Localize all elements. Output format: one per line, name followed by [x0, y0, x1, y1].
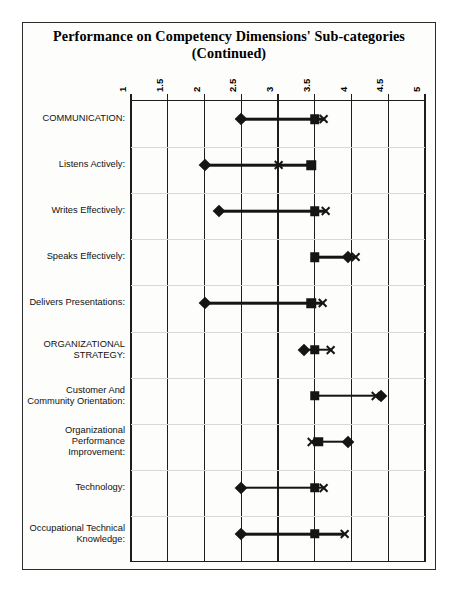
- category-label: Writes Effectively:: [23, 206, 125, 217]
- row-separator: [131, 147, 425, 148]
- category-label-line: Organizational: [23, 425, 125, 436]
- data-point-square: [310, 529, 320, 539]
- data-point-cross: [339, 528, 350, 539]
- category-label-line: Listens Actively:: [23, 160, 125, 171]
- range-line: [205, 302, 323, 305]
- row-separator: [131, 424, 425, 425]
- data-point-square: [310, 253, 320, 263]
- chart-title: Performance on Competency Dimensions' Su…: [22, 28, 436, 62]
- category-label: Technology:: [23, 482, 125, 493]
- range-line: [241, 533, 344, 536]
- x-tick-label: 2: [191, 72, 209, 92]
- x-tick-mark: [424, 94, 425, 101]
- x-tick-mark: [351, 94, 352, 101]
- x-tick-mark: [241, 94, 242, 101]
- x-tick-mark: [130, 94, 131, 101]
- category-label-line: Community Orientation:: [23, 396, 125, 407]
- chart-title-line1: Performance on Competency Dimensions' Su…: [53, 28, 405, 44]
- category-label-line: Occupational Technical: [23, 523, 125, 534]
- data-point-square: [310, 391, 320, 401]
- x-tick-mark: [204, 94, 205, 101]
- data-point-square: [306, 160, 316, 170]
- range-line: [205, 164, 312, 167]
- category-label-line: Speaks Effectively:: [23, 252, 125, 263]
- category-label-line: COMMUNICATION:: [23, 113, 125, 124]
- data-point-cross: [273, 160, 284, 171]
- category-label: Delivers Presentations:: [23, 298, 125, 309]
- x-tick-label: 5: [411, 72, 429, 92]
- category-label-line: Customer And: [23, 384, 125, 395]
- x-tick-mark: [277, 94, 278, 101]
- category-label-line: Technology:: [23, 482, 125, 493]
- category-label: OrganizationalPerformanceImprovement:: [23, 425, 125, 459]
- category-label-line: Performance: [23, 436, 125, 447]
- x-tick-label: 2.5: [227, 72, 245, 92]
- category-label: COMMUNICATION:: [23, 113, 125, 124]
- x-tick-mark: [388, 94, 389, 101]
- data-point-cross: [318, 482, 329, 493]
- data-point-cross: [350, 252, 361, 263]
- category-label-line: Writes Effectively:: [23, 206, 125, 217]
- x-tick-label: 1: [117, 72, 135, 92]
- chart-title-line2: (Continued): [22, 45, 436, 62]
- row-separator: [131, 193, 425, 194]
- x-tick-label: 1.5: [154, 72, 172, 92]
- x-tick-label: 4: [338, 72, 356, 92]
- category-label-line: Improvement:: [23, 447, 125, 458]
- category-label: Speaks Effectively:: [23, 252, 125, 263]
- data-point-cross: [370, 390, 381, 401]
- data-point-square: [306, 299, 316, 309]
- row-separator: [131, 332, 425, 333]
- x-tick-mark: [314, 94, 315, 101]
- row-separator: [131, 516, 425, 517]
- data-point-square: [310, 345, 320, 355]
- row-separator: [131, 239, 425, 240]
- category-label-line: Delivers Presentations:: [23, 298, 125, 309]
- x-tick-mark: [167, 94, 168, 101]
- row-separator: [131, 285, 425, 286]
- x-tick-label: 3.5: [301, 72, 319, 92]
- data-point-cross: [317, 298, 328, 309]
- category-label-line: ORGANIZATIONAL: [23, 338, 125, 349]
- category-label-line: STRATEGY:: [23, 350, 125, 361]
- x-tick-label: 4.5: [374, 72, 392, 92]
- category-label: Listens Actively:: [23, 160, 125, 171]
- category-label: Customer AndCommunity Orientation:: [23, 384, 125, 406]
- data-point-cross: [306, 436, 317, 447]
- data-point-cross: [318, 114, 329, 125]
- category-label: Occupational TechnicalKnowledge:: [23, 523, 125, 545]
- data-point-square: [310, 207, 320, 217]
- row-separator: [131, 470, 425, 471]
- data-point-cross: [325, 344, 336, 355]
- category-label: ORGANIZATIONALSTRATEGY:: [23, 338, 125, 360]
- category-label-line: Knowledge:: [23, 534, 125, 545]
- data-point-cross: [320, 206, 331, 217]
- x-tick-label: 3: [264, 72, 282, 92]
- row-separator: [131, 378, 425, 379]
